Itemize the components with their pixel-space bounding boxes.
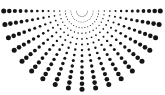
data-dot — [56, 40, 58, 42]
data-dot — [51, 35, 53, 37]
data-dot — [17, 45, 22, 50]
data-dot — [98, 25, 99, 26]
data-dot — [71, 12, 72, 13]
data-dot — [101, 67, 105, 71]
data-dot — [52, 58, 55, 61]
data-dot — [80, 65, 83, 68]
data-dot — [53, 10, 55, 12]
data-dot — [113, 48, 116, 51]
data-dot — [142, 9, 146, 13]
data-dot — [89, 59, 92, 62]
data-dot — [108, 58, 111, 61]
data-dot — [87, 11, 88, 12]
data-dot — [120, 56, 124, 60]
data-dot — [25, 19, 28, 22]
data-dot — [80, 71, 84, 75]
data-dot — [48, 16, 50, 18]
data-dot — [98, 10, 99, 11]
data-dot — [112, 21, 114, 23]
data-dot — [109, 10, 111, 12]
data-dot — [88, 54, 91, 57]
data-dot — [55, 32, 57, 34]
data-dot — [92, 12, 93, 13]
data-dot — [90, 64, 93, 67]
data-dot — [111, 62, 115, 66]
data-dot — [96, 52, 99, 55]
data-dot — [92, 75, 96, 79]
data-dot — [118, 23, 120, 25]
data-dot — [105, 24, 107, 26]
data-dot — [113, 67, 117, 71]
data-dot — [42, 10, 44, 12]
data-dot — [101, 21, 102, 22]
data-dot — [61, 62, 64, 65]
data-dot — [76, 13, 77, 14]
data-dot — [62, 21, 63, 22]
data-dot — [71, 64, 74, 67]
data-dot — [41, 56, 45, 60]
data-dot — [67, 47, 69, 49]
data-dot — [87, 12, 88, 13]
data-dot — [93, 86, 98, 91]
data-dot — [22, 30, 26, 34]
data-dot — [151, 21, 156, 26]
data-dot — [55, 77, 60, 82]
data-dot — [119, 32, 122, 35]
data-dot — [64, 39, 66, 41]
data-dot — [29, 68, 34, 73]
data-dot — [131, 9, 134, 12]
data-dot — [78, 21, 79, 22]
data-dot — [74, 31, 75, 32]
data-dot — [81, 33, 82, 34]
data-dot — [84, 27, 85, 28]
data-dot — [28, 28, 31, 31]
data-dot — [147, 9, 151, 13]
data-dot — [92, 41, 94, 43]
data-dot — [57, 24, 59, 26]
data-dot — [77, 32, 78, 33]
data-dot — [95, 34, 97, 36]
data-dot — [43, 72, 48, 77]
figure-root: Radial Dot Fan — [0, 0, 165, 95]
data-dot — [116, 72, 121, 77]
data-dot — [77, 14, 78, 15]
data-dot — [82, 22, 83, 23]
data-dot — [63, 57, 66, 60]
data-dot — [42, 17, 44, 19]
data-dot — [27, 40, 31, 44]
data-dot — [86, 38, 88, 40]
data-dot — [130, 68, 135, 73]
data-dot — [131, 52, 135, 56]
data-dot — [37, 60, 41, 64]
data-dot — [130, 18, 133, 21]
data-dot — [99, 32, 101, 34]
data-dot — [42, 42, 45, 45]
data-dot — [81, 16, 82, 17]
data-dot — [85, 32, 86, 33]
data-dot — [75, 43, 77, 45]
data-dot — [80, 76, 84, 80]
data-dot — [67, 34, 69, 36]
data-dot — [54, 15, 56, 17]
data-dot — [81, 27, 82, 28]
data-dot — [70, 30, 71, 31]
data-dot — [79, 15, 80, 16]
data-dot — [81, 44, 83, 46]
data-dot — [29, 52, 33, 56]
data-dot — [100, 44, 102, 46]
data-dot — [103, 14, 104, 15]
data-dot — [139, 59, 144, 64]
data-dot — [57, 72, 61, 76]
data-dot — [55, 53, 58, 56]
data-dot — [115, 38, 118, 41]
data-dot — [138, 42, 142, 46]
data-dot — [42, 32, 45, 35]
data-dot — [104, 10, 105, 11]
data-dot — [98, 57, 101, 60]
data-dot — [94, 47, 96, 49]
data-dot — [72, 16, 73, 17]
data-dot — [66, 16, 67, 17]
data-dot — [67, 27, 68, 28]
data-dot — [11, 34, 16, 39]
data-dot — [106, 40, 108, 42]
